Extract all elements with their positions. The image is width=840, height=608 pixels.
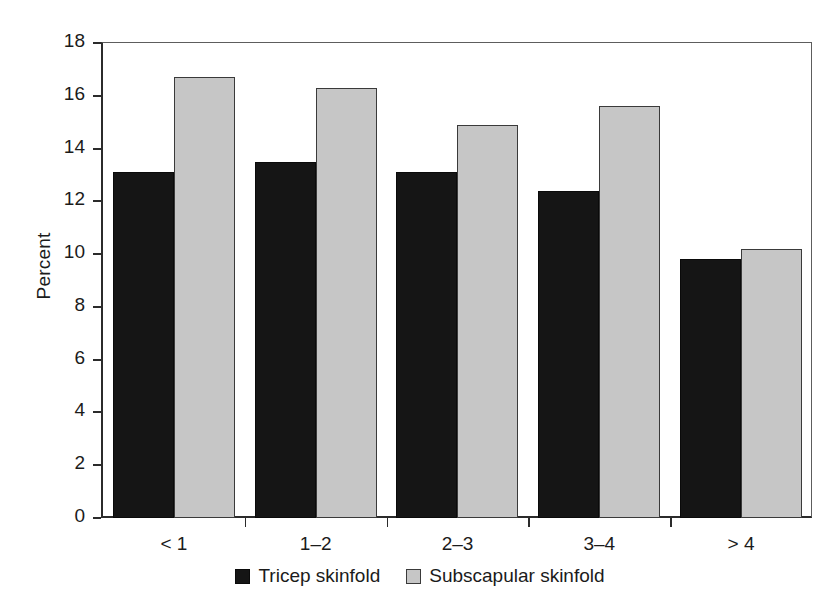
bar-group <box>387 43 529 518</box>
bar-tricep[interactable] <box>680 259 741 518</box>
bar-subscapular[interactable] <box>174 77 235 518</box>
y-tick-label: 10 <box>40 241 85 263</box>
y-tick-label: 18 <box>40 30 85 52</box>
chart-legend: Tricep skinfoldSubscapular skinfold <box>0 565 840 587</box>
x-tick-label: > 4 <box>681 533 801 555</box>
y-tick-label: 0 <box>40 505 85 527</box>
x-tick-mark <box>670 518 672 527</box>
y-tick-label: 2 <box>40 452 85 474</box>
y-tick-mark <box>93 200 101 202</box>
bar-subscapular[interactable] <box>457 125 518 518</box>
y-tick-label: 8 <box>40 294 85 316</box>
y-tick-mark <box>93 148 101 150</box>
x-tick-mark <box>528 518 530 527</box>
bar-tricep[interactable] <box>113 172 174 518</box>
y-tick-label: 6 <box>40 347 85 369</box>
y-tick-label: 14 <box>40 136 85 158</box>
y-tick-mark <box>93 95 101 97</box>
x-tick-label: 1–2 <box>256 533 376 555</box>
x-tick-label: 2–3 <box>398 533 518 555</box>
bar-subscapular[interactable] <box>316 88 377 518</box>
y-tick-mark <box>93 464 101 466</box>
y-tick-mark <box>93 411 101 413</box>
bar-group <box>670 43 812 518</box>
bar-chart-figure: Percent 024681012141618 < 11–22–33–4> 4 … <box>0 0 840 608</box>
y-tick-mark <box>93 42 101 44</box>
y-tick-mark <box>93 253 101 255</box>
y-tick-label: 4 <box>40 399 85 421</box>
bar-group <box>528 43 670 518</box>
legend-label: Tricep skinfold <box>258 565 380 587</box>
bar-tricep[interactable] <box>538 191 599 518</box>
y-tick-mark <box>93 306 101 308</box>
bar-group <box>245 43 387 518</box>
y-tick-label: 12 <box>40 188 85 210</box>
bar-subscapular[interactable] <box>741 249 802 518</box>
y-tick-mark <box>93 359 101 361</box>
x-tick-label: < 1 <box>114 533 234 555</box>
bar-tricep[interactable] <box>255 162 316 518</box>
legend-label: Subscapular skinfold <box>429 565 604 587</box>
legend-item[interactable]: Subscapular skinfold <box>406 565 604 587</box>
plot-area <box>103 43 812 518</box>
x-tick-mark <box>245 518 247 527</box>
gray-square-swatch <box>406 569 421 584</box>
bar-tricep[interactable] <box>396 172 457 518</box>
black-square-swatch <box>235 569 250 584</box>
x-tick-label: 3–4 <box>539 533 659 555</box>
bar-subscapular[interactable] <box>599 106 660 518</box>
y-tick-mark <box>93 517 101 519</box>
legend-item[interactable]: Tricep skinfold <box>235 565 380 587</box>
bar-group <box>103 43 245 518</box>
x-tick-mark <box>387 518 389 527</box>
y-tick-label: 16 <box>40 83 85 105</box>
